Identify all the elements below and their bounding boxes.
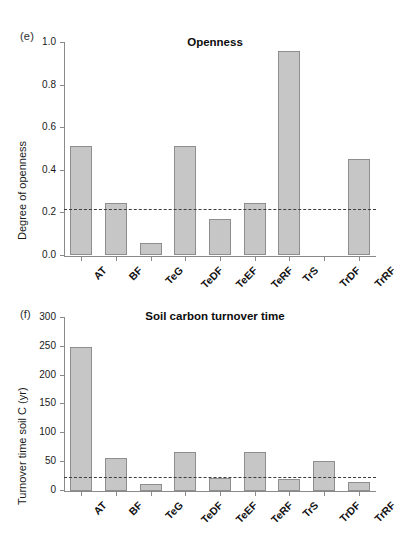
x-tick-terf <box>255 257 256 261</box>
x-tick-trrf <box>359 257 360 261</box>
bar-tedf <box>174 146 196 255</box>
x-tick-trs <box>289 257 290 261</box>
y-tick-label-e-2: 0.4 <box>22 164 56 175</box>
x-tick-label-trdf: TrDF <box>337 264 362 289</box>
x-tick-label-trs: TrS <box>300 499 320 519</box>
x-tick-bf <box>116 492 117 496</box>
y-tick-label-f-4: 200 <box>22 369 56 380</box>
x-tick-trdf <box>324 257 325 261</box>
bar-terf <box>244 203 266 255</box>
bar-trrf <box>348 482 370 491</box>
x-tick-label-trrf: TrRF <box>372 264 397 289</box>
bar-bf <box>105 203 127 255</box>
x-tick-label-teg: TeG <box>162 264 184 286</box>
bar-at <box>70 146 92 255</box>
y-tick-label-e-5: 1.0 <box>22 36 56 47</box>
bar-tedf <box>174 452 196 491</box>
x-tick-label-bf: BF <box>126 499 144 517</box>
x-tick-trrf <box>359 492 360 496</box>
x-tick-label-teef: TeEF <box>233 499 259 525</box>
x-tick-teef <box>220 492 221 496</box>
x-tick-trs <box>289 492 290 496</box>
x-tick-label-teg: TeG <box>162 499 184 521</box>
bar-teef <box>209 478 231 491</box>
bar-at <box>70 347 92 491</box>
bar-teef <box>209 219 231 255</box>
x-tick-teg <box>151 492 152 496</box>
bar-trrf <box>348 159 370 255</box>
panel-soil-carbon-turnover-time: (f) Soil carbon turnover time Turnover t… <box>0 290 383 560</box>
y-tick-label-f-6: 300 <box>22 311 56 322</box>
bar-teg <box>140 243 162 255</box>
x-tick-at <box>81 492 82 496</box>
panel-openness: (e) Openness Degree of openness 1.0 0.8 … <box>0 0 383 290</box>
y-tick-label-e-0: 0.0 <box>22 249 56 260</box>
y-tick-label-f-3: 150 <box>22 397 56 408</box>
bar-terf <box>244 452 266 491</box>
y-tick-e-0 <box>60 255 64 256</box>
bar-trs <box>278 479 300 491</box>
y-tick-label-f-5: 250 <box>22 340 56 351</box>
x-tick-label-terf: TeRF <box>268 499 295 526</box>
x-tick-label-at: AT <box>91 264 109 282</box>
x-tick-label-tedf: TeDF <box>199 499 226 526</box>
x-tick-teg <box>151 257 152 261</box>
reference-line <box>64 477 376 478</box>
y-axis-label-openness: Degree of openness <box>16 141 28 240</box>
y-tick-label-e-3: 0.6 <box>22 121 56 132</box>
y-tick-label-f-0: 0 <box>22 484 56 495</box>
reference-line <box>64 209 376 210</box>
x-tick-label-at: AT <box>91 499 109 517</box>
y-tick-label-f-1: 50 <box>22 455 56 466</box>
x-tick-bf <box>116 257 117 261</box>
bar-teg <box>140 484 162 491</box>
x-tick-label-trdf: TrDF <box>337 499 362 524</box>
x-tick-label-teef: TeEF <box>233 264 259 290</box>
x-tick-at <box>81 257 82 261</box>
x-tick-terf <box>255 492 256 496</box>
x-tick-label-trrf: TrRF <box>372 499 397 524</box>
plot-area-soil-carbon <box>64 317 376 491</box>
y-tick-label-f-2: 100 <box>22 426 56 437</box>
y-tick-label-e-1: 0.2 <box>22 206 56 217</box>
x-tick-label-trs: TrS <box>300 264 320 284</box>
x-tick-trdf <box>324 492 325 496</box>
x-tick-label-terf: TeRF <box>268 264 295 291</box>
x-tick-label-tedf: TeDF <box>199 264 226 291</box>
bar-bf <box>105 458 127 491</box>
y-tick-label-e-4: 0.8 <box>22 79 56 90</box>
x-tick-tedf <box>185 257 186 261</box>
x-tick-label-bf: BF <box>126 264 144 282</box>
bar-trs <box>278 51 300 255</box>
x-tick-tedf <box>185 492 186 496</box>
plot-area-openness <box>64 42 376 255</box>
x-tick-teef <box>220 257 221 261</box>
